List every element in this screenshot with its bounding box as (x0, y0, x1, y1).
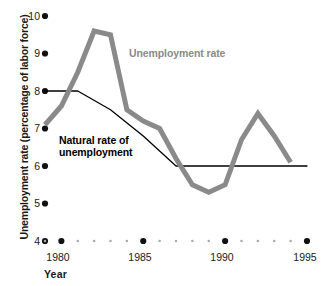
unemployment-chart: Unemployment rate (percentage of labor f… (0, 0, 323, 286)
y-axis-dot (42, 50, 48, 56)
x-axis-minor-dot (158, 240, 161, 243)
x-axis-minor-dot (126, 240, 129, 243)
x-axis-minor-dot (208, 240, 211, 243)
x-axis-minor-dot (175, 240, 178, 243)
x-axis-minor-dot (273, 240, 276, 243)
y-axis-dot (42, 13, 48, 19)
x-axis-minor-dot (44, 240, 47, 243)
plot-area (0, 0, 323, 286)
x-axis-major-dot (140, 238, 146, 244)
unemployment-rate-series (45, 31, 291, 192)
x-axis-minor-dot (77, 240, 80, 243)
x-axis-minor-dot (191, 240, 194, 243)
x-axis-major-dot (58, 238, 64, 244)
y-axis-dot (42, 125, 48, 131)
y-axis-dot (42, 163, 48, 169)
x-axis-major-dot (222, 238, 228, 244)
x-axis-minor-dot (240, 240, 243, 243)
x-axis-minor-dot (109, 240, 112, 243)
x-axis-minor-dot (289, 240, 292, 243)
x-axis-minor-dot (257, 240, 260, 243)
x-axis-major-dot (304, 238, 310, 244)
x-axis-minor-dot (93, 240, 96, 243)
y-axis-dot (42, 200, 48, 206)
